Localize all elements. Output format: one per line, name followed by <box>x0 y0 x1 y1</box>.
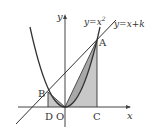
point-D-label: D <box>45 111 53 122</box>
line-label: y=x+k <box>113 19 145 29</box>
parabola-label: y=x2 <box>83 15 106 27</box>
line-y-x-plus-k <box>16 20 116 124</box>
point-C-label: C <box>93 111 101 122</box>
y-axis-label: y <box>56 11 63 22</box>
point-A-label: A <box>98 37 107 48</box>
y-axis-arrow-icon <box>63 14 67 19</box>
origin-label: O <box>56 111 64 122</box>
diagram-canvas: y x y=x2 y=x+k A B C D O <box>0 0 159 134</box>
math-diagram: y x y=x2 y=x+k A B C D O <box>0 0 159 134</box>
x-axis-arrow-icon <box>126 105 131 109</box>
point-B-label: B <box>38 88 45 99</box>
x-axis-label: x <box>127 110 133 121</box>
